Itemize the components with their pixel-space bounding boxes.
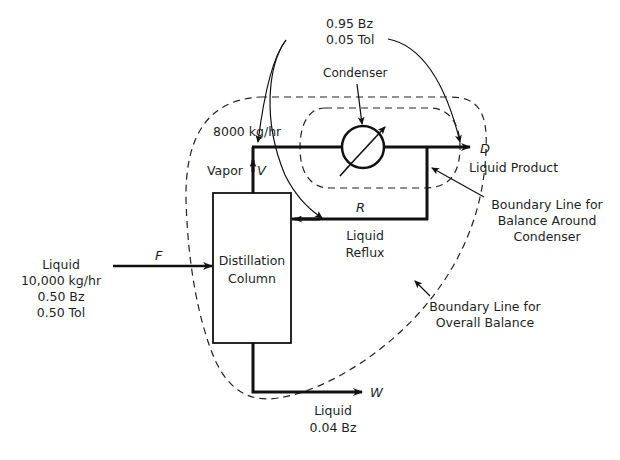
distillate-tol-fraction: 0.05 Tol — [326, 32, 374, 47]
bottoms-phase: Liquid — [303, 403, 363, 418]
condenser-label: Condenser — [323, 66, 388, 81]
condenser-boundary-label-line2: Balance Around — [482, 213, 612, 228]
column-label-line2: Column — [213, 271, 291, 286]
column-label-line1: Distillation — [213, 253, 291, 268]
bottoms-stream — [253, 343, 362, 392]
distillate-label: Liquid Product — [469, 160, 558, 175]
reflux-label-line2: Reflux — [340, 245, 390, 260]
feed-phase: Liquid — [15, 257, 107, 272]
condenser-boundary-label-line1: Boundary Line for — [482, 197, 612, 212]
bottoms-symbol: W — [370, 385, 383, 400]
vapor-label: Vapor — [207, 163, 243, 178]
vapor-flow-rate: 8000 kg/hr — [213, 124, 281, 139]
distillate-bz-fraction: 0.95 Bz — [326, 16, 373, 31]
feed-bz-fraction: 0.50 Bz — [15, 289, 107, 304]
overall-boundary-label-line2: Overall Balance — [420, 315, 550, 330]
condenser-boundary-label-line3: Condenser — [482, 229, 612, 244]
condenser-icon — [342, 126, 384, 168]
reflux-symbol: R — [356, 200, 365, 215]
vapor-symbol: V — [257, 163, 266, 178]
feed-tol-fraction: 0.50 Tol — [15, 305, 107, 320]
bottoms-bz-fraction: 0.04 Bz — [303, 420, 363, 435]
distillation-column — [213, 193, 291, 343]
feed-symbol: F — [155, 248, 162, 263]
distillate-symbol: D — [480, 141, 490, 156]
feed-flow-rate: 10,000 kg/hr — [15, 273, 107, 288]
overall-boundary-label-line1: Boundary Line for — [420, 299, 550, 314]
reflux-label-line1: Liquid — [343, 228, 387, 243]
